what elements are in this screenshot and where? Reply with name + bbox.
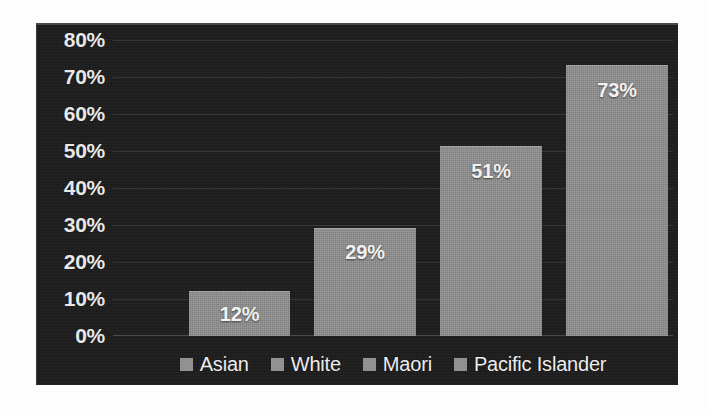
bar-slot-pacific-islander: 73% (566, 40, 668, 336)
y-tick-label: 50% (64, 139, 105, 163)
legend-item-white[interactable]: White (271, 353, 341, 376)
y-tick-label: 80% (64, 28, 105, 52)
legend-swatch-white-icon (271, 358, 284, 371)
bar-white[interactable]: 29% (314, 228, 416, 336)
y-tick-label: 40% (64, 176, 105, 200)
legend-swatch-pacific-islander-icon (454, 358, 467, 371)
legend-swatch-asian-icon (180, 358, 193, 371)
y-tick-label: 70% (64, 65, 105, 89)
legend-item-pacific-islander[interactable]: Pacific Islander (454, 353, 606, 376)
bar-slot-white: 29% (314, 40, 416, 336)
chart-legend: Asian White Maori Pacific Islander (113, 349, 673, 379)
legend-label-asian: Asian (200, 353, 249, 376)
legend-label-maori: Maori (383, 353, 432, 376)
bar-slot-asian: 12% (189, 40, 290, 336)
bar-value-maori: 51% (440, 160, 542, 183)
bar-slot-maori: 51% (440, 40, 542, 336)
legend-item-asian[interactable]: Asian (180, 353, 249, 376)
bar-maori[interactable]: 51% (440, 146, 542, 336)
bar-asian[interactable]: 12% (189, 291, 290, 336)
bar-value-asian: 12% (189, 303, 290, 326)
chart-page: 80% 70% 60% 50% 40% 30% 20% 10% 0% (0, 0, 710, 410)
y-tick-label: 0% (75, 324, 105, 348)
y-axis: 80% 70% 60% 50% 40% 30% 20% 10% 0% (37, 25, 113, 343)
bar-pacific-islander[interactable]: 73% (566, 65, 668, 336)
chart-panel: 80% 70% 60% 50% 40% 30% 20% 10% 0% (36, 23, 678, 385)
plot-area: 12% 29% 51% 73% (113, 40, 673, 336)
y-tick-label: 60% (64, 102, 105, 126)
y-tick-label: 30% (64, 213, 105, 237)
legend-item-maori[interactable]: Maori (363, 353, 432, 376)
bar-value-pacific-islander: 73% (566, 79, 668, 102)
legend-label-pacific-islander: Pacific Islander (474, 353, 606, 376)
y-tick-label: 10% (64, 287, 105, 311)
y-tick-label: 20% (64, 250, 105, 274)
bar-value-white: 29% (314, 241, 416, 264)
legend-label-white: White (291, 353, 341, 376)
bar-series: 12% 29% 51% 73% (113, 40, 673, 336)
legend-swatch-maori-icon (363, 358, 376, 371)
